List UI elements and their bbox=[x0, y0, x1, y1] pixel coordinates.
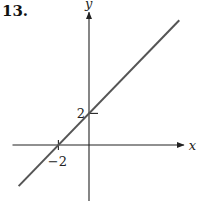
y-axis-label: y bbox=[84, 0, 93, 11]
x-tick-label: −2 bbox=[48, 154, 67, 169]
x-axis-label: x bbox=[189, 138, 197, 153]
graph: 13. x y −2 2 bbox=[0, 0, 198, 201]
series-line bbox=[19, 20, 180, 186]
problem-number: 13. bbox=[2, 2, 28, 20]
